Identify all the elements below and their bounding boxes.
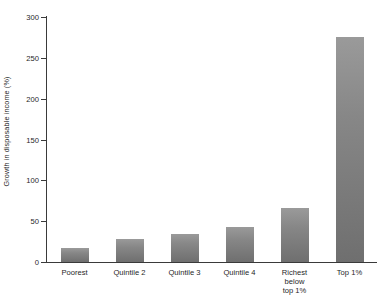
y-axis-tick-label: 150	[9, 135, 39, 144]
bar	[226, 227, 254, 262]
y-axis-tick-label: 0	[9, 258, 39, 267]
y-axis-tick-label: 50	[9, 217, 39, 226]
bar	[171, 234, 199, 262]
x-axis-tick-label: Poorest	[47, 268, 102, 277]
bar	[336, 37, 364, 262]
y-axis-tick	[41, 17, 46, 18]
y-axis-tick-label: 200	[9, 94, 39, 103]
bar	[61, 248, 89, 262]
bar	[116, 239, 144, 262]
y-axis-tick-label: 300	[9, 13, 39, 22]
x-axis-line	[46, 262, 377, 263]
y-axis-tick	[41, 221, 46, 222]
x-axis-tick-label: Quintile 3	[157, 268, 212, 277]
x-axis-tick-label: Quintile 2	[102, 268, 157, 277]
y-axis-title-label: Growth in disposable income (%)	[3, 76, 12, 186]
plot-area	[47, 17, 377, 262]
x-axis-tick-label: Quintile 4	[212, 268, 267, 277]
x-axis-tick-label: Richest below top 1%	[267, 268, 322, 296]
y-axis-tick-label: 250	[9, 53, 39, 62]
y-axis-tick-label: 100	[9, 176, 39, 185]
y-axis-tick	[41, 58, 46, 59]
y-axis-tick	[41, 262, 46, 263]
y-axis-tick	[41, 99, 46, 100]
x-axis-tick-label: Top 1%	[322, 268, 377, 277]
y-axis-tick	[41, 180, 46, 181]
y-axis-tick	[41, 140, 46, 141]
bar	[281, 208, 309, 262]
bar-chart: Growth in disposable income (%) PoorestQ…	[0, 0, 384, 305]
